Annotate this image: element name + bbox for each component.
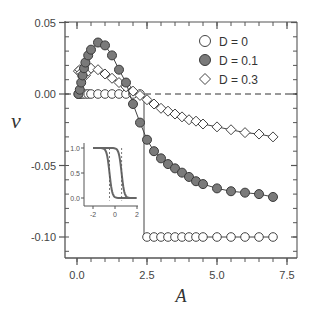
open-circle-marker [227, 233, 236, 242]
filled-circle-marker [213, 184, 222, 193]
chart: 0.050.00-0.05-0.100.02.55.07.5 D = 0D = … [0, 0, 313, 315]
filled-circle-marker [199, 180, 208, 189]
legend: D = 0D = 0.1D = 0.3 [200, 35, 259, 87]
inset-x-tick-label: 0 [113, 211, 117, 218]
x-axis-title: A [175, 286, 188, 306]
x-tick-label: 0.0 [69, 269, 84, 281]
open-diamond-marker [268, 132, 278, 142]
open-diamond-marker [240, 128, 250, 138]
data-series [73, 38, 278, 241]
legend-label: D = 0 [219, 35, 248, 49]
y-tick-label: 0.00 [35, 88, 56, 100]
y-tick-label: -0.10 [31, 231, 56, 243]
legend-item: D = 0.1 [200, 54, 259, 68]
filled-circle-marker [227, 187, 236, 196]
legend-label: D = 0.3 [219, 73, 258, 87]
filled-circle-marker [108, 51, 117, 60]
inset-plot: 0.00.51.0-202 [70, 143, 139, 218]
open-diamond-marker [212, 122, 222, 132]
x-tick-label: 2.5 [139, 269, 154, 281]
y-tick-label: -0.05 [31, 160, 56, 172]
open-circle-marker [255, 233, 264, 242]
legend-open-diamond-icon [200, 74, 211, 85]
open-diamond-marker [226, 125, 236, 135]
x-tick-label: 7.5 [279, 269, 294, 281]
open-circle-marker [241, 233, 250, 242]
inset-curve [93, 148, 136, 198]
inset-x-tick-label: -2 [90, 211, 96, 218]
filled-circle-marker [101, 41, 110, 50]
legend-item: D = 0.3 [200, 73, 259, 87]
inset-y-tick-label: 0.5 [70, 170, 80, 177]
y-tick-label: 0.05 [35, 17, 56, 29]
filled-circle-marker [115, 65, 124, 74]
legend-open-circle-icon [200, 36, 211, 47]
filled-circle-marker [269, 192, 278, 201]
filled-circle-marker [129, 100, 138, 109]
open-circle-marker [213, 233, 222, 242]
legend-label: D = 0.1 [219, 54, 258, 68]
filled-circle-marker [136, 118, 145, 127]
filled-circle-marker [122, 78, 131, 87]
legend-filled-circle-icon [200, 55, 211, 66]
inset-y-tick-label: 0.0 [70, 195, 80, 202]
filled-circle-marker [241, 188, 250, 197]
inset-curve [93, 148, 136, 198]
filled-circle-marker [255, 190, 264, 199]
inset-y-tick-label: 1.0 [70, 145, 80, 152]
open-diamond-marker [254, 129, 264, 139]
open-circle-marker [199, 233, 208, 242]
open-circle-marker [269, 233, 278, 242]
inset-x-tick-label: 2 [135, 211, 139, 218]
filled-circle-marker [87, 45, 96, 54]
x-tick-label: 5.0 [209, 269, 224, 281]
legend-item: D = 0 [200, 35, 249, 49]
filled-circle-marker [150, 147, 159, 156]
filled-circle-marker [143, 135, 152, 144]
y-axis-title: v [11, 108, 21, 133]
